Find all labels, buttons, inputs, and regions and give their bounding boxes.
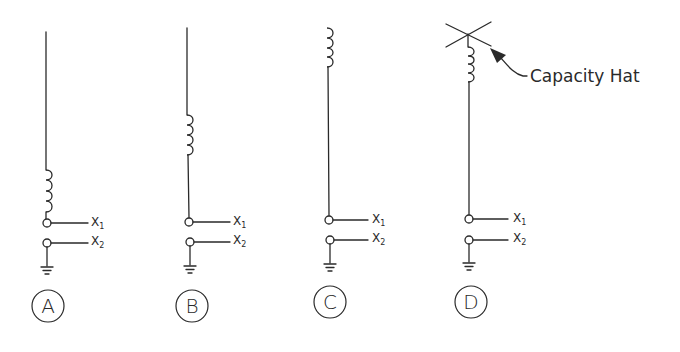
antenna-c: X1 X2 C [314,28,385,318]
radiator-lower [188,155,189,218]
capacity-hat-label: Capacity Hat [530,66,640,86]
antenna-label: C [323,290,337,314]
label-x2: X2 [513,231,526,247]
label-x1: X1 [91,215,104,231]
loading-coil-icon [187,115,193,155]
terminal-x1 [465,215,473,223]
terminal-x2 [326,236,334,244]
antenna-label: B [185,294,198,318]
terminal-x2 [465,236,473,244]
label-x2: X2 [372,231,385,247]
antenna-d: X1 X2 D Capacity Hat [446,22,640,318]
terminal-x2 [43,239,51,247]
capacity-hat-annotation: Capacity Hat [490,48,640,86]
terminal-x1 [185,218,193,226]
ground-icon [41,267,53,274]
terminal-x1 [325,216,333,224]
label-x1: X1 [233,214,246,230]
loading-coil-icon [327,28,333,67]
antenna-b: X1 X2 B [176,28,246,322]
ground-icon [463,263,475,270]
arrow-leader [500,57,527,76]
loading-coil-icon [46,170,52,212]
radiator [328,67,329,216]
antenna-label: D [463,290,478,314]
label-x2: X2 [91,234,104,250]
label-x1: X1 [513,211,526,227]
ground-icon [184,266,196,273]
loading-coil-icon [468,47,474,82]
terminal-x1 [43,219,51,227]
antenna-a: X1 X2 A [32,32,104,322]
antenna-label: A [41,294,55,318]
antenna-loading-diagram: X1 X2 A X1 X2 B [0,0,680,352]
ground-icon [324,264,336,271]
terminal-x2 [186,238,194,246]
label-x1: X1 [372,212,385,228]
label-x2: X2 [233,233,246,249]
